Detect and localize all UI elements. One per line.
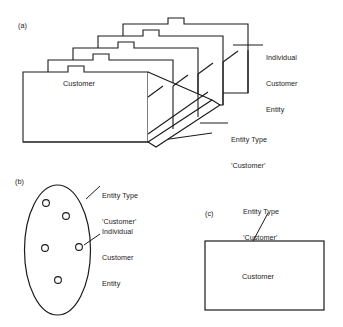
panel-b-set-diagram	[25, 185, 91, 315]
entity-member-circle	[63, 213, 70, 220]
annotation-line: 'Customer'	[231, 162, 267, 171]
annotation-individual-customer-entity-a: Individual Customer Entity	[266, 37, 298, 132]
annotation-line: Entity	[266, 106, 298, 115]
annotation-line: Individual	[102, 228, 134, 237]
annotation-line: Entity Type	[231, 136, 267, 145]
entity-rectangle-label-customer: Customer	[242, 272, 274, 281]
panel-tag-c: (c)	[205, 209, 213, 218]
annotation-individual-customer-entity-b: Individual Customer Entity	[102, 211, 134, 306]
annotation-line: Customer	[102, 254, 134, 263]
figure-root: (a) Customer Individual Customer Entity …	[0, 0, 343, 327]
leader-entity-type-customer-b	[86, 186, 100, 199]
entity-member-circle	[43, 200, 50, 207]
annotation-entity-type-customer-a: Entity Type 'Customer'	[231, 119, 267, 188]
panel-tag-a: (a)	[18, 21, 27, 30]
panel-tag-b: (b)	[15, 177, 24, 186]
annotation-line: Individual	[266, 54, 298, 63]
panel-a-folder-stack	[23, 18, 248, 147]
folder-front-1	[23, 66, 148, 142]
entity-member-circle	[76, 244, 83, 251]
entity-member-circle	[55, 277, 62, 284]
annotation-line: Entity Type	[243, 208, 279, 217]
annotation-line: Entity Type	[102, 192, 138, 201]
annotation-line: Customer	[266, 80, 298, 89]
annotation-line: 'Customer'	[243, 234, 279, 243]
annotation-entity-type-customer-c: Entity Type 'Customer'	[243, 191, 279, 260]
annotation-line: Entity	[102, 280, 134, 289]
entity-member-circle	[42, 245, 49, 252]
front-folder-label-customer: Customer	[63, 79, 95, 88]
